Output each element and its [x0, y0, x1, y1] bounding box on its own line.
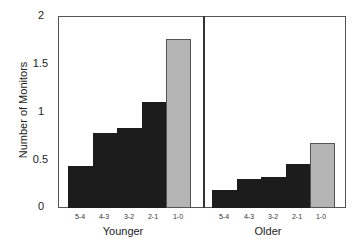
older-group-label: Older: [228, 225, 308, 237]
y-tick-0: 0: [24, 200, 44, 212]
bar-older-4-3: [237, 179, 262, 208]
y-tick-1.5: 1.5: [28, 57, 48, 69]
younger-tick-5-4: 5-4: [68, 213, 92, 220]
younger-tick-3-2: 3-2: [117, 213, 141, 220]
bar-younger-5-4: [68, 166, 93, 208]
older-tick-1-0: 1-0: [309, 213, 333, 220]
bar-older-5-4: [212, 190, 237, 208]
y-tick-1: 1: [24, 105, 44, 117]
older-tick-2-1: 2-1: [285, 213, 309, 220]
y-tick-2: 2: [24, 9, 44, 21]
younger-tick-2-1: 2-1: [141, 213, 165, 220]
y-tick-0.5: 0.5: [28, 153, 48, 165]
younger-tick-1-0: 1-0: [166, 213, 190, 220]
bar-older-1-0: [310, 143, 335, 208]
younger-tick-4-3: 4-3: [92, 213, 116, 220]
bar-older-3-2: [261, 177, 286, 208]
bar-older-2-1: [286, 164, 311, 208]
younger-group-label: Younger: [83, 225, 163, 237]
bar-younger-1-0: [166, 39, 191, 208]
bar-younger-2-1: [142, 102, 167, 208]
bar-younger-4-3: [93, 133, 118, 208]
older-tick-4-3: 4-3: [237, 213, 261, 220]
bar-younger-3-2: [117, 128, 142, 208]
older-tick-3-2: 3-2: [261, 213, 285, 220]
panel-divider: [203, 16, 205, 208]
older-tick-5-4: 5-4: [212, 213, 236, 220]
